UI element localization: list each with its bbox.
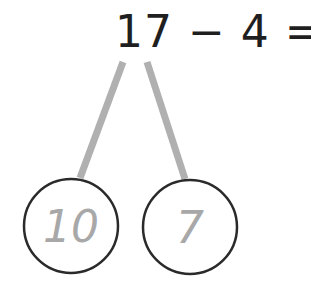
branch-line-right — [147, 62, 185, 179]
part-value-left: 10 — [43, 201, 99, 252]
branch-line-left — [80, 62, 123, 178]
part-circle-right: 7 — [143, 180, 237, 274]
part-circle-left: 10 — [24, 179, 118, 273]
part-value-right: 7 — [176, 202, 204, 253]
number-bond-diagram: 10 7 — [0, 0, 311, 301]
